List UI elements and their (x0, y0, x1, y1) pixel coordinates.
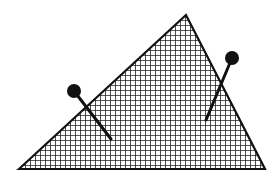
crosshatched-triangle (19, 15, 265, 169)
diagram-canvas (0, 0, 280, 179)
pin-head (225, 51, 239, 65)
pinned-triangle-diagram (0, 0, 280, 179)
pin-head (67, 84, 81, 98)
